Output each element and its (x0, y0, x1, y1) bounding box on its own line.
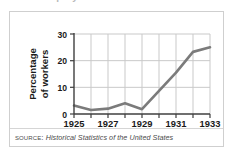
y-axis-title-line1: Percentage (27, 48, 38, 100)
cropped-title-remnant: Unemployment in the United States (0, 0, 233, 9)
plot-area: 30 20 10 0 1925 1927 1929 1931 1933 Perc… (10, 12, 223, 128)
source-title: Historical Statistics of the United Stat… (46, 133, 174, 142)
chart-panel: 30 20 10 0 1925 1927 1929 1931 1933 Perc… (9, 11, 224, 147)
source-label: Source: (15, 133, 44, 142)
line-chart-svg: 30 20 10 0 1925 1927 1929 1931 1933 Perc… (10, 12, 223, 128)
source-line: Source: Historical Statistics of the Uni… (15, 133, 173, 142)
x-tick-label-1929: 1929 (132, 118, 153, 128)
y-axis-title: Percentage of workers (27, 48, 50, 100)
chart-figure: Unemployment in the United States (0, 0, 233, 158)
x-gridlines (91, 34, 210, 114)
y-tick-label-30: 30 (57, 30, 67, 40)
x-tick-label-1927: 1927 (98, 118, 119, 128)
x-tick-labels: 1925 1927 1929 1931 1933 (64, 118, 221, 128)
y-tick-label-20: 20 (57, 56, 67, 66)
source-bar: Source: Historical Statistics of the Uni… (10, 128, 223, 146)
cropped-title-text: Unemployment in the United States (27, 0, 205, 1)
y-tick-label-10: 10 (57, 83, 67, 93)
y-tick-labels: 30 20 10 0 (57, 30, 67, 120)
x-tick-label-1933: 1933 (200, 118, 221, 128)
x-tick-label-1931: 1931 (166, 118, 187, 128)
y-axis-title-line2: of workers (39, 50, 50, 99)
x-tick-label-1925: 1925 (64, 118, 85, 128)
